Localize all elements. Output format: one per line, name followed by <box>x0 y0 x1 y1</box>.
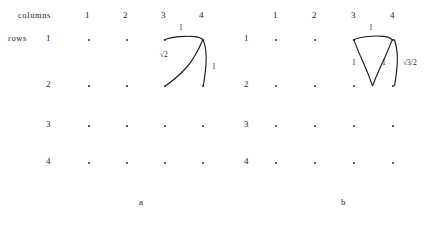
lattice-dot <box>202 85 204 87</box>
column-header-1: 1 <box>273 11 278 20</box>
row-header-2: 2 <box>244 80 249 89</box>
measure-right-side-b: 1 <box>382 58 386 67</box>
lattice-dot <box>392 39 394 41</box>
lattice-dot <box>353 39 355 41</box>
column-header-4: 4 <box>390 11 395 20</box>
lattice-dot <box>392 162 394 164</box>
row-header-4: 4 <box>46 157 51 166</box>
lattice-dot <box>392 85 394 87</box>
lattice-dot <box>314 125 316 127</box>
lattice-dot <box>164 162 166 164</box>
row-header-3: 3 <box>244 120 249 129</box>
panel-caption-b: b <box>341 198 346 207</box>
row-header-2: 2 <box>46 80 51 89</box>
lattice-dot <box>314 39 316 41</box>
measure-height-b: √3/2 <box>403 58 417 67</box>
measure-hypotenuse-a: √2 <box>160 50 168 59</box>
lattice-dot <box>164 39 166 41</box>
panel-a: columns rows 1 2 3 4 1 2 3 4 1 √2 1 a <box>0 0 230 225</box>
lattice-dot <box>275 125 277 127</box>
row-header-4: 4 <box>244 157 249 166</box>
row-header-1: 1 <box>244 34 249 43</box>
lattice-dot <box>88 39 90 41</box>
lattice-dot <box>88 85 90 87</box>
column-header-2: 2 <box>123 11 128 20</box>
measure-top-side-a: 1 <box>179 23 183 32</box>
rows-axis-label: rows <box>8 34 27 43</box>
lattice-dot <box>353 162 355 164</box>
lattice-dot <box>126 85 128 87</box>
column-header-3: 3 <box>351 11 356 20</box>
lattice-dot <box>202 125 204 127</box>
columns-axis-label: columns <box>18 11 51 20</box>
lattice-dot <box>164 125 166 127</box>
lattice-dot <box>353 85 355 87</box>
lattice-dot <box>126 125 128 127</box>
lattice-dot <box>275 39 277 41</box>
column-header-4: 4 <box>199 11 204 20</box>
lattice-dot <box>126 39 128 41</box>
measure-right-side-a: 1 <box>212 62 216 71</box>
lattice-dot <box>275 162 277 164</box>
column-header-1: 1 <box>85 11 90 20</box>
lattice-dot <box>88 125 90 127</box>
lattice-dot <box>314 162 316 164</box>
column-header-2: 2 <box>312 11 317 20</box>
panel-caption-a: a <box>139 198 143 207</box>
lattice-dot <box>353 125 355 127</box>
lattice-dot <box>88 162 90 164</box>
lattice-dot <box>314 85 316 87</box>
measure-top-side-b: 1 <box>369 23 373 32</box>
lattice-dot <box>164 85 166 87</box>
row-header-1: 1 <box>46 34 51 43</box>
panel-b: 1 2 3 4 1 2 3 4 1 1 1 √3/2 b <box>230 0 437 225</box>
lattice-dot <box>202 162 204 164</box>
measure-left-side-b: 1 <box>352 58 356 67</box>
lattice-dot <box>202 39 204 41</box>
lattice-dot <box>275 85 277 87</box>
lattice-dot <box>392 125 394 127</box>
row-header-3: 3 <box>46 120 51 129</box>
column-header-3: 3 <box>161 11 166 20</box>
lattice-dot <box>126 162 128 164</box>
